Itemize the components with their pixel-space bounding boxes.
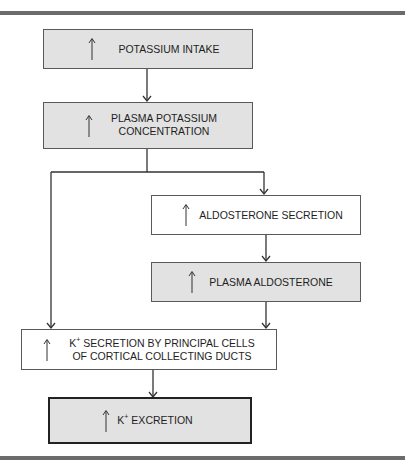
- box-label-line1: K+ SECRETION BY PRINCIPAL CELLS: [22, 337, 276, 350]
- box-plasma-aldosterone: PLASMA ALDOSTERONE: [151, 262, 361, 302]
- box-label-line2: CONCENTRATION: [44, 125, 252, 138]
- box-label-line1: PLASMA POTASSIUM: [44, 112, 252, 125]
- box-label: POTASSIUM INTAKE: [44, 43, 252, 56]
- box-label: ALDOSTERONE SECRETION: [152, 209, 360, 222]
- box-potassium-intake: POTASSIUM INTAKE: [43, 29, 253, 69]
- box-aldosterone-secretion: ALDOSTERONE SECRETION: [151, 195, 361, 235]
- box-k-secretion: K+ SECRETION BY PRINCIPAL CELLS OF CORTI…: [21, 329, 277, 370]
- box-k-excretion: K+ EXCRETION: [48, 397, 252, 444]
- box-label: PLASMA ALDOSTERONE: [152, 276, 360, 289]
- box-label: K+ EXCRETION: [50, 414, 250, 427]
- box-plasma-potassium: PLASMA POTASSIUM CONCENTRATION: [43, 102, 253, 149]
- box-label-line2: OF CORTICAL COLLECTING DUCTS: [22, 350, 276, 363]
